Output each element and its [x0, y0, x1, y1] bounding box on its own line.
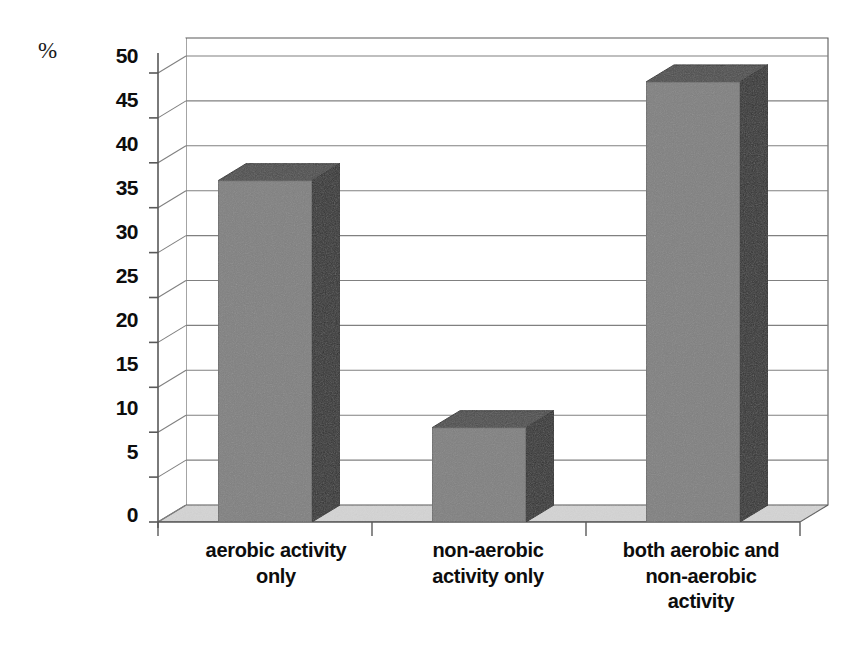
- chart-plot-area: [0, 0, 860, 653]
- bar-2-front-face: [646, 82, 740, 522]
- bar-1-side-face: [526, 411, 554, 522]
- bar-0-front-face: [218, 181, 312, 522]
- bar-0-side-face: [312, 164, 340, 522]
- left-wall: [158, 38, 186, 522]
- chart-page: % 50 45 40 35 30 25 20 15 10 5 0 aerobic…: [0, 0, 860, 653]
- bar-2-side-face: [740, 65, 768, 522]
- plot-group: [149, 38, 828, 536]
- bar-1-front-face: [432, 428, 526, 522]
